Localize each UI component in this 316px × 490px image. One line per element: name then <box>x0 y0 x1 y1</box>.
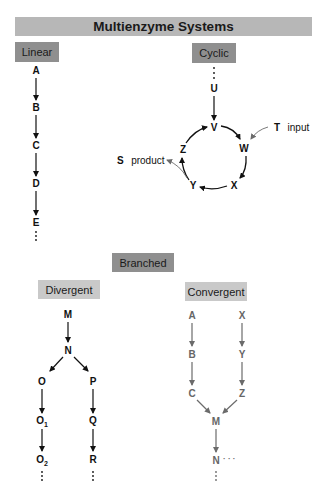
arrow-n-o <box>50 357 63 371</box>
linear-node-e: E <box>33 217 40 228</box>
continuation-dots <box>35 231 37 241</box>
continuation-dots <box>215 471 217 481</box>
convergent-node-c: C <box>188 388 195 399</box>
linear-pathway: A B C D E <box>32 65 39 241</box>
convergent-node-x: X <box>239 310 246 321</box>
convergent-pathway: A X B Y C Z M N · · · <box>188 310 245 481</box>
linear-node-c: C <box>32 140 39 151</box>
cyclic-node-z: Z <box>180 144 186 155</box>
divergent-node-o1: O1 <box>36 415 48 428</box>
convergent-node-y: Y <box>239 349 246 360</box>
convergent-node-n: N <box>212 455 219 466</box>
convergent-node-m: M <box>212 416 220 427</box>
arrow-w-x <box>240 156 246 178</box>
cyclic-node-u: U <box>210 83 217 94</box>
arrow-z-m <box>223 400 237 413</box>
arrow-t-input <box>251 127 268 139</box>
cyclic-pathway: U V W X Y Z T input S product <box>117 67 309 191</box>
convergent-node-b: B <box>188 349 195 360</box>
arrow-c-m <box>197 400 210 413</box>
arrow-x-y <box>200 186 227 189</box>
divergent-node-o2: O2 <box>36 454 48 467</box>
cyclic-node-v: V <box>211 122 218 133</box>
linear-node-d: D <box>32 178 39 189</box>
s-product-label: S product <box>117 150 165 167</box>
arrow-z-v <box>186 127 207 143</box>
continuation-dots <box>41 471 94 481</box>
divergent-node-p: P <box>90 376 97 387</box>
cyclic-node-x: X <box>231 180 238 191</box>
cyclic-node-w: W <box>239 143 249 154</box>
cyclic-node-y: Y <box>190 180 197 191</box>
horizontal-continuation: · · · <box>223 454 235 463</box>
linear-node-a: A <box>32 65 39 76</box>
divergent-pathway: M N O P O1 Q O2 R <box>36 309 97 481</box>
t-input-label: T input <box>274 117 309 134</box>
convergent-node-a: A <box>188 310 195 321</box>
divergent-node-n: N <box>64 345 71 356</box>
convergent-node-z: Z <box>239 388 245 399</box>
divergent-node-m: M <box>64 309 72 320</box>
linear-node-b: B <box>32 102 39 113</box>
divergent-node-r: R <box>89 454 97 465</box>
arrow-v-w <box>221 126 240 139</box>
arrow-y-z <box>182 158 189 180</box>
divergent-node-q: Q <box>89 415 97 426</box>
arrow-n-p <box>74 357 88 371</box>
pathway-diagram: A B C D E U V W X Y Z T input <box>0 0 316 490</box>
divergent-node-o: O <box>38 376 46 387</box>
entry-dots <box>213 67 215 79</box>
